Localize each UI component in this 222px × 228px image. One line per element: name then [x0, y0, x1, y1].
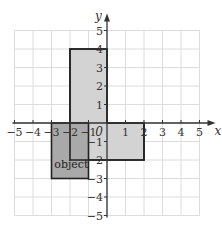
x-tick-label: 1 [122, 126, 129, 139]
y-tick-label: −2 [87, 154, 103, 167]
x-tick-label: 2 [141, 126, 148, 139]
axes [13, 14, 216, 218]
y-tick-label: −5 [87, 210, 103, 223]
y-axis-arrow-icon [104, 14, 110, 22]
labels: −5−4−3−2−11234554321−1−2−3−4−50xy [6, 9, 221, 223]
y-tick-label: −4 [87, 191, 103, 204]
x-tick-label: 3 [159, 126, 166, 139]
y-tick-label: 5 [96, 25, 103, 38]
y-axis-label: y [94, 9, 102, 23]
x-tick-label: −5 [6, 126, 22, 139]
y-tick-label: 1 [96, 99, 103, 112]
x-tick-label: −3 [43, 126, 59, 139]
x-tick-label: −2 [62, 126, 78, 139]
y-tick-label: 4 [96, 43, 103, 56]
y-tick-label: 3 [96, 62, 103, 75]
y-tick-label: −3 [87, 173, 103, 186]
x-tick-label: 4 [178, 126, 185, 139]
y-tick-label: 2 [96, 80, 103, 93]
x-tick-label: 5 [196, 126, 203, 139]
object-label: object [54, 158, 89, 171]
origin-label: 0 [95, 125, 103, 139]
coordinate-diagram: object −5−4−3−2−11234554321−1−2−3−4−50xy [0, 0, 222, 228]
x-tick-label: −4 [25, 126, 41, 139]
x-axis-label: x [215, 124, 222, 138]
